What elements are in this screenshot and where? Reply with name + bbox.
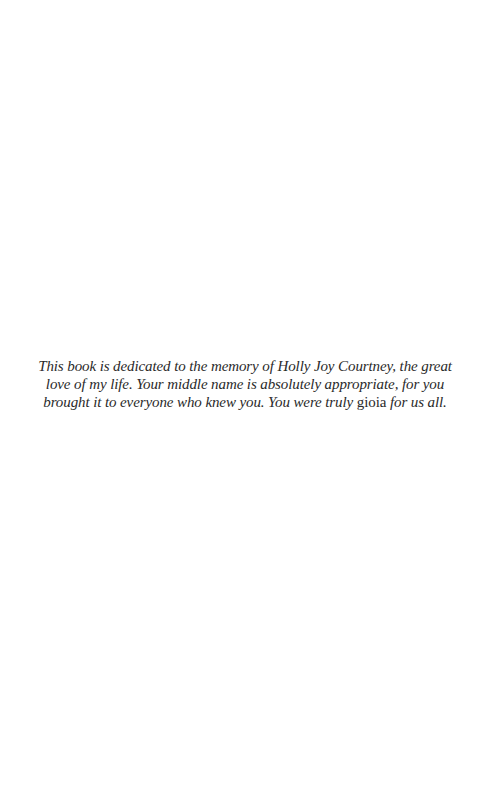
dedication-closing: for us all. <box>386 394 446 410</box>
dedication-foreign-word: gioia <box>357 394 387 410</box>
dedication-text: This book is dedicated to the memory of … <box>28 357 462 411</box>
book-page: This book is dedicated to the memory of … <box>0 0 490 802</box>
